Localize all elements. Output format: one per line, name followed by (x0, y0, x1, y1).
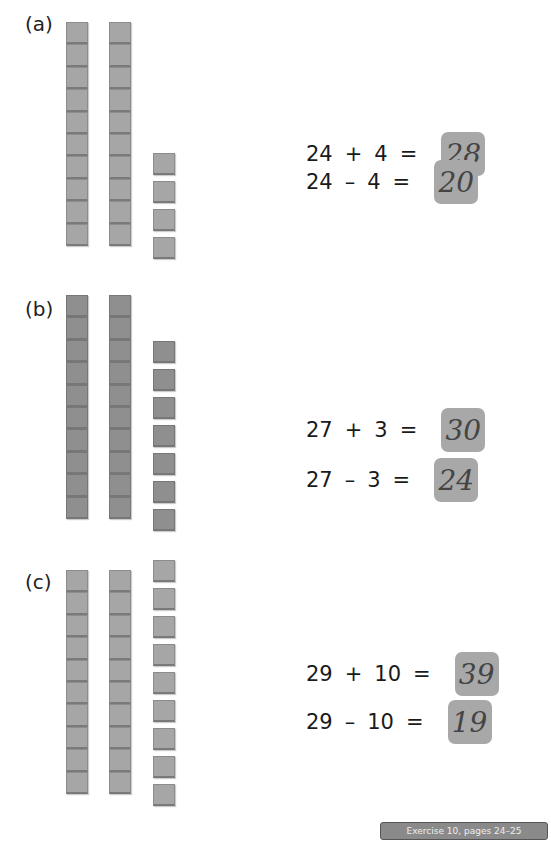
equation-op: – (345, 170, 356, 194)
answer-box[interactable]: 24 (434, 458, 478, 502)
ones-cube (153, 616, 175, 638)
tens-rod (109, 295, 131, 519)
ones-cube (153, 209, 175, 231)
equation-a: 27 (306, 468, 333, 492)
answer-box[interactable]: 19 (448, 700, 492, 744)
ones-cube (153, 509, 175, 531)
ones-cube (153, 425, 175, 447)
ones-cube (153, 672, 175, 694)
answer-box[interactable]: 39 (455, 652, 499, 696)
tens-rod (66, 22, 88, 246)
section-label: (c) (25, 570, 52, 594)
equation-b: 3 (374, 418, 387, 442)
ones-cube (153, 784, 175, 806)
equation: 29+10=39 (306, 652, 499, 696)
equation-eq: = (393, 468, 411, 492)
tens-rod (109, 570, 131, 794)
equation-b: 10 (367, 710, 394, 734)
exercise-reference-text: Exercise 10, pages 24–25 (407, 826, 522, 836)
answer-box[interactable]: 20 (434, 160, 478, 204)
ones-cube (153, 181, 175, 203)
equation-eq: = (400, 418, 418, 442)
equation-eq: = (406, 710, 424, 734)
ones-cube (153, 397, 175, 419)
answer-box[interactable]: 30 (441, 408, 485, 452)
ones-cube (153, 644, 175, 666)
equation-b: 4 (367, 170, 380, 194)
equation-op: – (345, 710, 356, 734)
ones-cube (153, 756, 175, 778)
exercise-reference-banner: Exercise 10, pages 24–25 (380, 822, 548, 840)
equation: 29–10=19 (306, 700, 492, 744)
equation: 27+3=30 (306, 408, 485, 452)
tens-rod (66, 295, 88, 519)
ones-cube (153, 560, 175, 582)
ones-cube (153, 700, 175, 722)
equation: 27–3=24 (306, 458, 478, 502)
equation: 24–4=20 (306, 160, 478, 204)
ones-cube (153, 341, 175, 363)
ones-cube (153, 481, 175, 503)
section-label: (a) (25, 12, 53, 36)
ones-cube (153, 453, 175, 475)
equation-eq: = (393, 170, 411, 194)
section-label: (b) (25, 297, 53, 321)
equation-op: + (345, 418, 363, 442)
ones-cube (153, 369, 175, 391)
tens-rod (109, 22, 131, 246)
equation-a: 24 (306, 170, 333, 194)
ones-cube (153, 237, 175, 259)
ones-cube (153, 728, 175, 750)
equation-b: 3 (367, 468, 380, 492)
equation-a: 29 (306, 710, 333, 734)
equation-eq: = (413, 662, 431, 686)
tens-rod (66, 570, 88, 794)
equation-b: 10 (374, 662, 401, 686)
equation-a: 27 (306, 418, 333, 442)
equation-a: 29 (306, 662, 333, 686)
equation-op: + (345, 662, 363, 686)
equation-op: – (345, 468, 356, 492)
ones-cube (153, 153, 175, 175)
ones-cube (153, 588, 175, 610)
